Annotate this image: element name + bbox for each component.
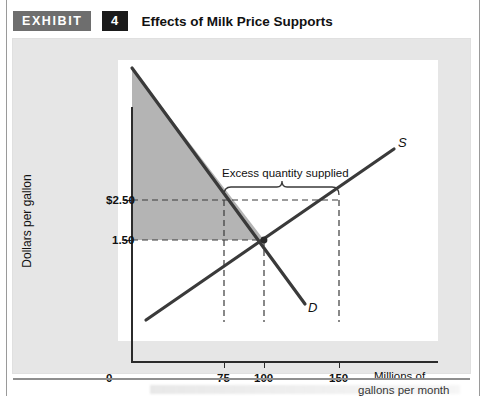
chart-graphics [13,39,470,373]
x-tick-75 [224,361,225,368]
x-axis-line [131,361,438,363]
footer-divider [13,378,470,380]
demand-curve-label: D [308,300,317,315]
x-tick-100 [264,361,265,368]
page-border-right [479,0,480,396]
footer-caption-ghost [150,385,460,394]
y-tick-label-150: 1.50 [112,234,134,246]
equilibrium-point [261,237,268,244]
x-tick-150 [339,361,340,368]
excess-brace [224,181,339,195]
y-tick-label-250: $2.50 [106,194,135,206]
exhibit-number-badge: 4 [102,11,128,31]
supply-curve-label: S [398,135,407,150]
x-axis-title-line1: Millions of [374,370,425,382]
y-axis-title: Dollars per gallon [20,174,34,267]
excess-quantity-annotation: Excess quantity supplied [222,167,349,179]
exhibit-figure: EXHIBIT 4 Effects of Milk Price Supports [0,0,487,396]
exhibit-label: EXHIBIT [13,11,91,31]
chart-panel: $2.50 1.50 0 75 100 150 Dollars per gall… [13,39,470,373]
page-border-left [6,0,7,396]
exhibit-title: Effects of Milk Price Supports [142,14,333,29]
exhibit-header: EXHIBIT 4 Effects of Milk Price Supports [13,10,333,32]
